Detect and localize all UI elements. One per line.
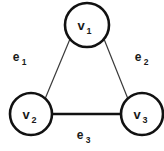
edge-e1-line xyxy=(45,39,70,99)
edges-group xyxy=(45,39,128,114)
node-v2-circle[interactable] xyxy=(10,93,52,135)
edge-e2-label: e xyxy=(135,50,142,64)
node-v1-label-subscript: 1 xyxy=(86,26,91,36)
node-v2-label: v xyxy=(22,107,30,122)
edge-e1-label: e xyxy=(13,50,20,64)
edge-e3-label: e xyxy=(77,128,84,142)
node-v3-label: v xyxy=(133,107,141,122)
graph-canvas: v 1 v 2 v 3 e 1 e 2 e 3 xyxy=(0,0,164,151)
edge-e2-line xyxy=(104,39,128,99)
graph-figure: v 1 v 2 v 3 e 1 e 2 e 3 xyxy=(0,0,164,151)
node-v3-label-subscript: 3 xyxy=(142,115,147,125)
edge-e2-label-subscript: 2 xyxy=(144,57,149,67)
node-v1-label: v xyxy=(77,18,85,33)
node-v2-label-subscript: 2 xyxy=(31,115,36,125)
edge-e1-label-subscript: 1 xyxy=(22,57,27,67)
node-v1-circle[interactable] xyxy=(65,3,109,47)
edge-e3-label-subscript: 3 xyxy=(86,135,91,145)
node-v3-circle[interactable] xyxy=(121,93,163,135)
